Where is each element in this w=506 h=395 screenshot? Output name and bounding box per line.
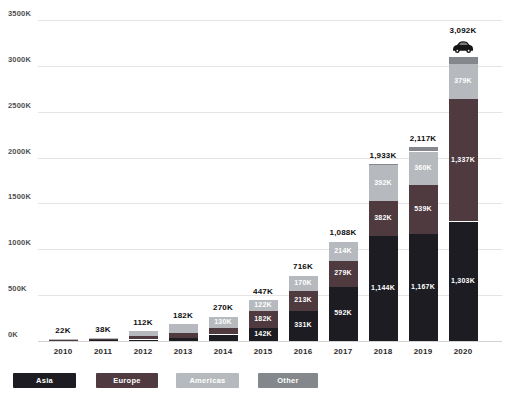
bar-segment-value-label: 182K — [249, 315, 278, 322]
gridline-3000k — [38, 66, 502, 67]
bar-total-label-2013: 182K — [153, 311, 213, 320]
bar-total-label-2017: 1,088K — [313, 228, 373, 237]
bar-segment-europe-2020: 1,337K — [449, 99, 478, 222]
x-axis-label-2018: 2018 — [363, 347, 403, 356]
bar-segment-europe-2012 — [129, 336, 158, 339]
bar-segment-value-label: 279K — [329, 269, 358, 276]
bar-segment-value-label: 382K — [369, 214, 398, 221]
plot-area: 0K500K1000K1500K2000K2500K3000K3500K22K2… — [0, 0, 506, 395]
bar-segment-value-label: 170K — [289, 279, 318, 286]
y-axis-tick-label: 1000K — [8, 238, 31, 247]
bar-total-label-2015: 447K — [233, 287, 293, 296]
legend: AsiaEuropeAmericasOther — [0, 370, 506, 392]
x-axis-label-2013: 2013 — [163, 347, 203, 356]
legend-item-other: Other — [258, 373, 318, 388]
x-axis-label-2019: 2019 — [403, 347, 443, 356]
bar-segment-americas-2013 — [169, 324, 198, 333]
bar-segment-asia-2018: 1,144K — [369, 236, 398, 341]
bar-total-label-2020: 3,092K — [433, 26, 493, 35]
bar-segment-asia-2010 — [49, 340, 78, 341]
gridline-0k — [38, 341, 502, 342]
gridline-3500k — [38, 20, 502, 21]
bar-segment-americas-2020: 379K — [449, 64, 478, 99]
bar-segment-asia-2016: 331K — [289, 311, 318, 341]
bar-segment-value-label: 1,167K — [409, 283, 438, 290]
bar-segment-americas-2018: 392K — [369, 165, 398, 201]
x-axis-label-2020: 2020 — [443, 347, 483, 356]
bar-segment-europe-2013 — [169, 333, 198, 338]
bar-segment-value-label: 1,337K — [449, 156, 478, 163]
bar-segment-europe-2014 — [209, 328, 238, 334]
bar-segment-asia-2013 — [169, 338, 198, 341]
car-icon — [451, 39, 475, 59]
bar-segment-asia-2019: 1,167K — [409, 234, 438, 341]
y-axis-tick-label: 3000K — [8, 55, 31, 64]
y-axis-tick-label: 3500K — [8, 9, 31, 18]
bar-segment-value-label: 1,144K — [369, 284, 398, 291]
y-axis-tick-label: 1500K — [8, 192, 31, 201]
y-axis-tick-label: 2000K — [8, 147, 31, 156]
bar-segment-europe-2016: 213K — [289, 291, 318, 311]
bar-segment-value-label: 214K — [329, 247, 358, 254]
bar-segment-europe-2010 — [49, 340, 78, 341]
bar-segment-asia-2017: 592K — [329, 287, 358, 341]
bar-segment-americas-2010 — [49, 339, 78, 340]
bar-segment-americas-2014: 130K — [209, 317, 238, 329]
x-axis-label-2011: 2011 — [83, 347, 123, 356]
y-axis-tick-label: 0K — [8, 330, 18, 339]
bar-segment-value-label: 592K — [329, 309, 358, 316]
bar-segment-value-label: 122K — [249, 301, 278, 308]
bar-segment-europe-2011 — [89, 339, 118, 340]
bar-total-label-2019: 2,117K — [393, 134, 453, 143]
legend-item-europe: Europe — [96, 373, 158, 388]
bar-segment-europe-2018: 382K — [369, 201, 398, 236]
bar-segment-value-label: 130K — [209, 318, 238, 325]
x-axis-label-2015: 2015 — [243, 347, 283, 356]
bar-segment-asia-2011 — [89, 340, 118, 341]
y-axis-tick-label: 2500K — [8, 101, 31, 110]
bar-segment-europe-2019: 539K — [409, 185, 438, 234]
bar-segment-asia-2014 — [209, 335, 238, 341]
bar-segment-other-2018 — [369, 164, 398, 165]
bar-total-label-2014: 270K — [193, 303, 253, 312]
bar-segment-value-label: 1,303K — [449, 277, 478, 284]
bar-segment-value-label: 213K — [289, 296, 318, 303]
x-axis-label-2012: 2012 — [123, 347, 163, 356]
bar-segment-europe-2017: 279K — [329, 261, 358, 287]
bar-segment-value-label: 331K — [289, 321, 318, 328]
x-axis-label-2016: 2016 — [283, 347, 323, 356]
bar-total-label-2018: 1,933K — [353, 151, 413, 160]
bar-segment-value-label: 142K — [249, 330, 278, 337]
bar-segment-americas-2019: 360K — [409, 152, 438, 185]
bar-segment-americas-2017: 214K — [329, 242, 358, 262]
bar-segment-asia-2012 — [129, 340, 158, 342]
ev-sales-stacked-bar-chart: 0K500K1000K1500K2000K2500K3000K3500K22K2… — [0, 0, 506, 395]
bar-segment-other-2019 — [409, 147, 438, 152]
gridline-2500k — [38, 112, 502, 113]
bar-segment-value-label: 539K — [409, 205, 438, 212]
bar-total-label-2016: 716K — [273, 262, 333, 271]
x-axis-label-2014: 2014 — [203, 347, 243, 356]
bar-segment-americas-2011 — [89, 338, 118, 340]
bar-segment-value-label: 392K — [369, 179, 398, 186]
y-axis-tick-label: 500K — [8, 284, 27, 293]
bar-segment-europe-2015: 182K — [249, 311, 278, 328]
bar-segment-americas-2015: 122K — [249, 300, 278, 311]
bar-segment-value-label: 379K — [449, 77, 478, 84]
bar-segment-value-label: 360K — [409, 164, 438, 171]
legend-item-asia: Asia — [13, 373, 76, 388]
x-axis-label-2017: 2017 — [323, 347, 363, 356]
x-axis-label-2010: 2010 — [43, 347, 83, 356]
bar-segment-americas-2016: 170K — [289, 276, 318, 292]
bar-segment-americas-2012 — [129, 331, 158, 337]
bar-segment-asia-2020: 1,303K — [449, 222, 478, 342]
bar-segment-asia-2015: 142K — [249, 328, 278, 341]
legend-item-americas: Americas — [176, 373, 239, 388]
